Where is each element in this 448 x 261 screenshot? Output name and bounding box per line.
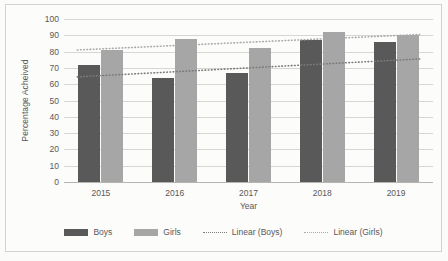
- legend-swatch-girls-icon: [134, 229, 158, 236]
- y-tick-label: 80: [50, 47, 59, 56]
- bar-boys[interactable]: [226, 73, 248, 182]
- bar-group: 2017: [226, 19, 271, 182]
- legend-item[interactable]: Girls: [134, 227, 180, 237]
- bar-group: 2018: [300, 19, 345, 182]
- y-tick-label: 20: [50, 145, 59, 154]
- bar-girls[interactable]: [323, 32, 345, 182]
- legend-swatch-linear-boys-icon: [203, 232, 227, 233]
- y-axis-title: Percentage Acheived: [20, 19, 32, 182]
- y-tick-label: 50: [50, 96, 59, 105]
- legend-item[interactable]: Linear (Boys): [203, 227, 283, 237]
- x-tick-label: 2017: [226, 188, 271, 198]
- bar-group: 2016: [152, 19, 197, 182]
- legend-swatch-linear-girls-icon: [304, 232, 328, 233]
- bar-girls[interactable]: [249, 48, 271, 182]
- x-tick-label: 2018: [300, 188, 345, 198]
- x-tick-label: 2015: [78, 188, 123, 198]
- legend-item-label: Linear (Girls): [333, 227, 382, 237]
- bar-group: 2015: [78, 19, 123, 182]
- bar-boys[interactable]: [152, 78, 174, 182]
- bar-girls[interactable]: [175, 39, 197, 182]
- legend-item-label: Girls: [163, 227, 180, 237]
- bar-boys[interactable]: [374, 42, 396, 182]
- chart-legend: BoysGirlsLinear (Boys)Linear (Girls): [6, 227, 441, 237]
- y-tick-label: 0: [54, 178, 59, 187]
- gridline: 0: [64, 182, 433, 183]
- x-tick-label: 2016: [152, 188, 197, 198]
- y-tick-label: 70: [50, 64, 59, 73]
- bar-girls[interactable]: [397, 35, 419, 182]
- y-tick-label: 40: [50, 113, 59, 122]
- legend-item-label: Boys: [93, 227, 112, 237]
- y-tick-label: 60: [50, 80, 59, 89]
- legend-item[interactable]: Linear (Girls): [304, 227, 382, 237]
- bar-boys[interactable]: [78, 65, 100, 182]
- legend-swatch-boys-icon: [64, 229, 88, 236]
- chart-frame: Percentage Acheived 10090807060504030201…: [5, 4, 442, 252]
- bar-girls[interactable]: [101, 50, 123, 182]
- bar-group: 2019: [374, 19, 419, 182]
- legend-item[interactable]: Boys: [64, 227, 112, 237]
- legend-item-label: Linear (Boys): [232, 227, 283, 237]
- plot-area: 1009080706050403020100 20152016201720182…: [64, 19, 433, 182]
- bar-boys[interactable]: [300, 40, 322, 182]
- y-tick-label: 90: [50, 31, 59, 40]
- x-axis-title: Year: [64, 201, 433, 211]
- x-tick-label: 2019: [374, 188, 419, 198]
- y-tick-label: 30: [50, 129, 59, 138]
- y-tick-label: 100: [45, 15, 59, 24]
- y-tick-label: 10: [50, 161, 59, 170]
